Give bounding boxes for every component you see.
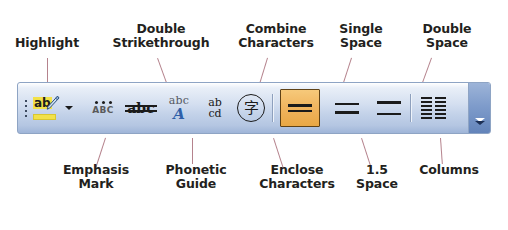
columns-icon [419,95,447,121]
toolbar-options-chevron-icon [473,114,487,128]
leader-line-phonetic-guide [192,138,193,164]
line-spacing-1-5-icon [334,103,360,114]
toolbar-button-strip: ab ABC [18,83,468,133]
toolbar-options-button[interactable] [468,83,490,133]
toolbar-separator-1 [272,94,274,122]
double-strikethrough-icon-text: abc [127,101,154,116]
toolbar-button-double-strikethrough[interactable]: abc [124,89,158,127]
callout-label-enclose-characters: Enclose Characters [246,163,348,190]
callout-label-highlight: Highlight [2,36,92,50]
phonetic-guide-ruby-text: abc [169,95,190,106]
double-strikethrough-icon: abc [124,97,158,119]
toolbar-button-emphasis-mark[interactable]: ABC [88,89,118,127]
combine-characters-icon: ab cd [202,94,228,122]
leader-line-columns [440,138,443,164]
line-spacing-single-icon [287,104,313,112]
emphasis-mark-icon-text: ABC [92,105,114,115]
toolbar-button-combine-characters[interactable]: ab cd [200,89,230,127]
figure-canvas: Highlight Double Strikethrough Combine C… [0,0,508,230]
phonetic-guide-base-text: A [173,107,185,122]
leader-line-highlight [47,58,48,82]
combine-characters-bottom-text: cd [208,108,221,119]
toolbar-button-one-half-space[interactable] [332,89,362,127]
callout-label-double-space: Double Space [405,22,489,49]
toolbar-button-phonetic-guide[interactable]: abc A [164,89,194,127]
toolbar-button-double-space[interactable] [374,89,404,127]
enclose-characters-icon: 字 [237,94,265,122]
callout-label-columns: Columns [410,163,488,177]
emphasis-dots [95,101,112,104]
highlight-icon-bar [33,114,56,120]
toolbar-button-columns[interactable] [418,89,448,127]
callout-label-single-space: Single Space [325,22,397,49]
toolbar-separator-2 [410,94,412,122]
emphasis-mark-icon: ABC [88,95,118,121]
toolbar-button-enclose-characters[interactable]: 字 [236,89,266,127]
toolbar-button-highlight[interactable]: ab [32,89,62,127]
callout-label-one-half-space: 1.5 Space [348,163,406,190]
pen-glyph [44,95,60,113]
highlight-icon: ab [32,94,62,122]
callout-label-emphasis-mark: Emphasis Mark [52,163,140,190]
callout-label-double-strikethrough: Double Strikethrough [99,22,223,49]
toolbar-button-single-space[interactable] [280,89,320,127]
formatting-toolbar[interactable]: ab ABC [17,82,491,134]
phonetic-guide-icon: abc A [164,93,194,123]
line-spacing-double-icon [376,101,402,115]
chevron-down-icon[interactable] [62,89,76,127]
callout-label-phonetic-guide: Phonetic Guide [156,163,236,190]
drag-grip-icon[interactable] [21,91,30,125]
callout-label-combine-characters: Combine Characters [228,22,324,49]
